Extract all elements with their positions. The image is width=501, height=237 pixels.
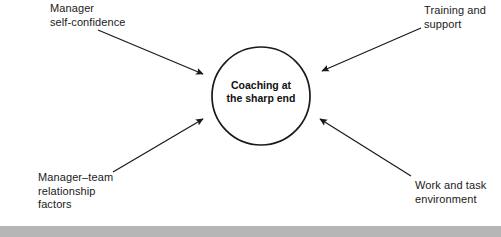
factor-label-work-and-task-environment: Work and task environment [415,179,486,206]
factor-label-manager-team-relationship-factors: Manager–team relationship factors [38,171,113,212]
arrow-training-and-support [322,28,421,71]
diagram-figure: Coaching at the sharp end Manager self-c… [0,0,501,237]
factor-label-manager-self-confidence: Manager self-confidence [50,2,126,29]
arrow-manager-self-confidence [98,30,203,74]
factor-label-training-and-support: Training and support [424,4,486,31]
arrow-work-and-task-environment [320,119,411,176]
caption-bar [0,226,501,237]
center-node-label: Coaching at the sharp end [212,79,310,105]
arrow-manager-team-relationship [113,119,203,172]
